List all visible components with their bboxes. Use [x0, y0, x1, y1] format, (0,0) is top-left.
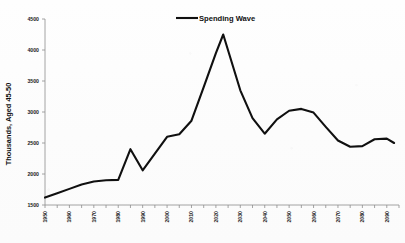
x-tick-label: 2030 — [237, 211, 243, 223]
spending-wave-chart: Thousands, Aged 45-50 150020002500300035… — [0, 0, 405, 243]
y-axis: 1500200025003000350040004500 — [27, 16, 45, 208]
x-tick-label: 1990 — [140, 211, 146, 223]
series-line-spending-wave — [45, 35, 394, 198]
x-tick-label: 2040 — [262, 211, 268, 223]
y-tick-label: 3500 — [27, 78, 39, 84]
y-tick-label: 4000 — [27, 47, 39, 53]
y-tick-label: 2000 — [27, 171, 39, 177]
chart-legend: Spending Wave — [176, 14, 255, 23]
x-tick-label: 2020 — [213, 211, 219, 223]
x-tick-label: 2090 — [384, 211, 390, 223]
x-tick-label: 2000 — [164, 211, 170, 223]
data-series-group — [45, 35, 394, 198]
x-tick-label: 2070 — [335, 211, 341, 223]
x-tick-label: 1950 — [42, 211, 48, 223]
x-tick-label: 2080 — [359, 211, 365, 223]
y-tick-label: 1500 — [27, 202, 39, 208]
legend-label-spending-wave: Spending Wave — [199, 14, 255, 23]
y-tick-label: 4500 — [27, 16, 39, 22]
x-axis: 1950196019701980199020002010202020302040… — [42, 205, 399, 223]
x-tick-label: 2050 — [286, 211, 292, 223]
x-tick-label: 2060 — [311, 211, 317, 223]
x-tick-label: 2010 — [188, 211, 194, 223]
x-tick-group: 1950196019701980199020002010202020302040… — [42, 205, 399, 223]
y-axis-title-group: Thousands, Aged 45-50 — [4, 83, 13, 166]
x-tick-label: 1980 — [115, 211, 121, 223]
y-tick-group: 1500200025003000350040004500 — [27, 16, 45, 208]
y-tick-label: 2500 — [27, 140, 39, 146]
y-tick-label: 3000 — [27, 109, 39, 115]
x-tick-label: 1960 — [66, 211, 72, 223]
y-axis-title: Thousands, Aged 45-50 — [4, 83, 13, 166]
x-tick-label: 1970 — [91, 211, 97, 223]
chart-canvas: Thousands, Aged 45-50 150020002500300035… — [0, 0, 405, 243]
